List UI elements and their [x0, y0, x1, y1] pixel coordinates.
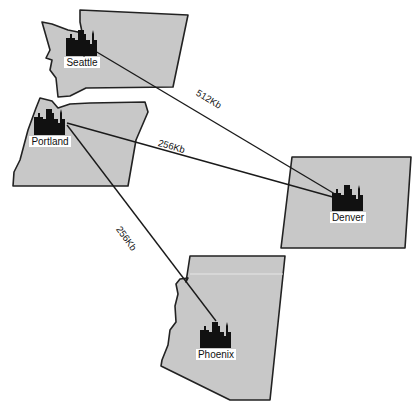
city-skyline-icon	[332, 183, 364, 211]
network-diagram: 512Kb 256Kb 256Kb Seattle Portland Denve…	[0, 0, 420, 411]
city-label: Phoenix	[196, 349, 236, 360]
site-phoenix[interactable]: Phoenix	[194, 320, 238, 360]
site-seattle[interactable]: Seattle	[60, 28, 104, 68]
link-portland-phoenix[interactable]	[67, 125, 216, 321]
city-label: Portland	[29, 136, 70, 147]
city-label: Seattle	[64, 57, 99, 68]
city-skyline-icon	[200, 320, 232, 348]
city-skyline-icon	[34, 107, 66, 135]
city-label: Denver	[330, 212, 366, 223]
site-portland[interactable]: Portland	[28, 107, 72, 147]
site-denver[interactable]: Denver	[326, 183, 370, 223]
city-skyline-icon	[66, 28, 98, 56]
